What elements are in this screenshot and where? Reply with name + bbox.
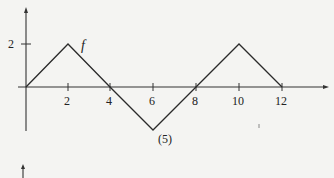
- svg-text:6: 6: [149, 94, 155, 108]
- svg-text:2: 2: [64, 94, 70, 108]
- x-tick-labels: 2 4 6 8 10 12: [64, 94, 287, 108]
- svg-text:8: 8: [192, 94, 198, 108]
- function-label: f: [81, 38, 87, 53]
- svg-text:4: 4: [106, 94, 112, 108]
- y-tick-label-2: 2: [8, 37, 14, 51]
- x-axis-arrow-icon: [323, 85, 329, 89]
- graph-figure: 2 2 4 6 8 10 12 f (5): [0, 0, 334, 178]
- svg-text:10: 10: [232, 94, 244, 108]
- svg-text:12: 12: [275, 94, 287, 108]
- y-axis-arrow-icon: [24, 7, 28, 13]
- next-figure-arrow-icon: [21, 164, 25, 169]
- figure-caption: (5): [158, 132, 172, 146]
